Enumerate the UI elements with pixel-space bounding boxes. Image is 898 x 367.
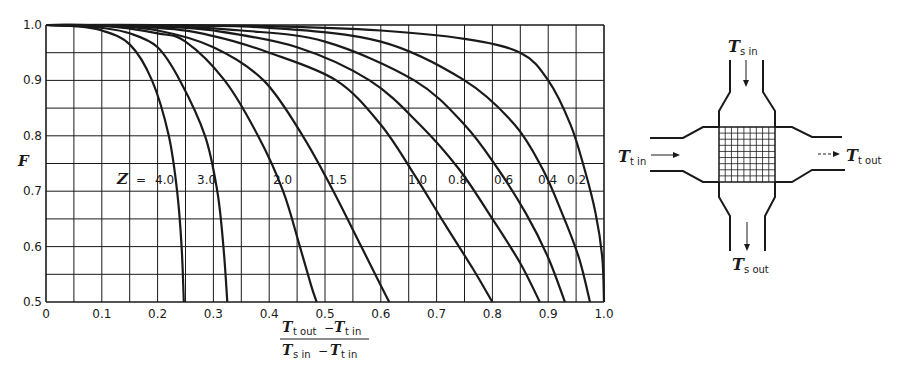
y-tick-label: 0.9 [23, 73, 42, 87]
x-tick-label: 0.6 [371, 307, 390, 321]
x-label-num-op: − [324, 321, 334, 335]
x-tick-label: 1.0 [594, 307, 613, 321]
z-label-0-8: 0.8 [448, 173, 467, 187]
plot-grid [46, 25, 604, 302]
y-tick-label: 0.5 [23, 295, 42, 309]
arrow-shell-in-head [743, 80, 749, 87]
x-tick-label: 0.2 [148, 307, 167, 321]
y-axis-label: F [17, 152, 30, 170]
x-tick-label: 0 [42, 307, 50, 321]
ts-out-sub: s out [744, 264, 769, 275]
z-label-0-4: 0.4 [538, 173, 557, 187]
z-label-0-6: 0.6 [494, 173, 513, 187]
x-tick-label: 0.1 [92, 307, 111, 321]
tt-in-sub: t in [630, 156, 646, 167]
x-tick-label: 0.4 [260, 307, 279, 321]
arrow-tube-in-head [673, 152, 680, 158]
z-label-0-2: 0.2 [567, 173, 586, 187]
y-tick-label: 0.7 [23, 184, 42, 198]
y-tick-label: 1.0 [23, 18, 42, 32]
z-legend: Z = 4.0 3.0 2.0 1.5 1.0 0.8 0.6 0.4 0.2 [116, 170, 586, 188]
ts-in-sub: s in [740, 46, 758, 57]
x-axis-ticks: 00.10.20.30.40.50.60.70.80.91.0 [42, 307, 613, 321]
shell-duct-top-left [719, 60, 730, 128]
x-tick-label: 0.3 [204, 307, 223, 321]
core-mesh [719, 127, 775, 182]
z-label-3-0: 3.0 [197, 173, 216, 187]
tube-duct-right-top [775, 127, 842, 137]
y-tick-label: 0.6 [23, 240, 42, 254]
arrow-tube-out-head [833, 151, 840, 157]
z-label-4-0: 4.0 [155, 173, 174, 187]
x-label-num-sub1: t out [293, 326, 317, 337]
tube-duct-right-bottom [775, 170, 845, 182]
chart-figure: 00.10.20.30.40.50.60.70.80.91.0 0.50.60.… [0, 0, 898, 367]
x-tick-label: 0.7 [427, 307, 446, 321]
arrow-shell-out-head [744, 244, 750, 251]
tube-duct-left-top [650, 127, 719, 138]
x-tick-label: 0.8 [483, 307, 502, 321]
shell-duct-bottom-left [719, 182, 730, 251]
exchanger-core [719, 127, 775, 182]
x-label-den-sub2: t in [341, 349, 357, 360]
shell-duct-bottom-right [765, 182, 775, 251]
z-label-2-0: 2.0 [273, 173, 292, 187]
x-axis-label: T t out − T t in T s in − T t in [280, 319, 369, 360]
x-label-den-sub1: s in [293, 349, 311, 360]
shell-duct-top-right [763, 60, 775, 128]
z-label-1-5: 1.5 [328, 173, 347, 187]
crossflow-exchanger-diagram [650, 60, 845, 251]
y-tick-label: 0.8 [23, 129, 42, 143]
z-equals: = [136, 173, 146, 187]
z-symbol: Z [116, 170, 129, 188]
x-label-den-op: − [318, 344, 328, 358]
tt-out-sub: t out [858, 155, 882, 166]
z-label-1-0: 1.0 [408, 173, 427, 187]
x-label-num-sub2: t in [345, 326, 361, 337]
tube-duct-left-bottom [650, 171, 719, 182]
x-tick-label: 0.5 [315, 307, 334, 321]
x-tick-label: 0.9 [539, 307, 558, 321]
